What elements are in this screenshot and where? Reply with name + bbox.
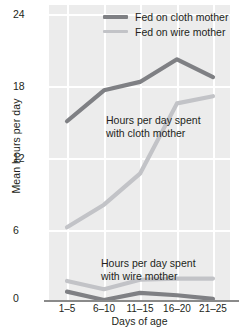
y-tick-6: 6 [13, 225, 47, 235]
y-tick-24: 24 [13, 9, 47, 19]
legend-label-wire: Fed on wire mother [135, 26, 225, 38]
x-tick-3: 11–15 [126, 303, 153, 314]
legend-item-wire: Fed on wire mother [103, 24, 228, 39]
y-axis-tick-labels: 24 18 12 6 0 [11, 0, 47, 333]
series-line-cloth-cloth-time [67, 59, 213, 121]
line-chart: Mean hours per day 24 18 12 6 0 Hours pe… [0, 0, 242, 333]
x-tick-5: 21–25 [199, 303, 227, 314]
annotation-cloth-mother: Hours per day spent with cloth mother [106, 114, 201, 140]
legend-swatch-wire-icon [103, 30, 128, 33]
x-tick-1: 1–5 [59, 303, 76, 314]
legend-label-cloth: Fed on cloth mother [135, 11, 228, 23]
annotation-wire-mother: Hours per day spent with wire mother [101, 257, 196, 283]
series-line-cloth-wire-time [67, 292, 213, 300]
legend: Fed on cloth mother Fed on wire mother [103, 9, 228, 39]
y-tick-18: 18 [13, 81, 47, 91]
y-tick-0: 0 [13, 293, 47, 303]
legend-item-cloth: Fed on cloth mother [103, 9, 228, 24]
legend-swatch-cloth-icon [103, 15, 128, 19]
y-tick-12: 12 [13, 153, 47, 163]
plot-area: Hours per day spent with cloth mother Ho… [49, 5, 230, 300]
series-lines [49, 5, 230, 300]
x-axis-line [44, 300, 239, 302]
x-tick-2: 6–10 [93, 303, 115, 314]
x-tick-4: 16–20 [163, 303, 191, 314]
x-axis-title: Days of age [49, 315, 230, 327]
